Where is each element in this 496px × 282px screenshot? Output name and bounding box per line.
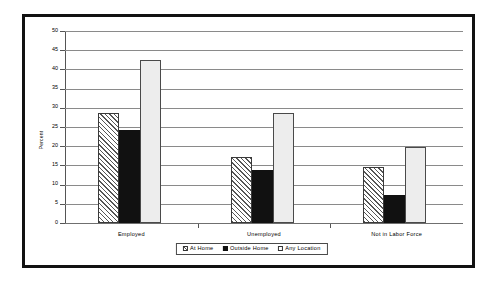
y-tick-label: 45: [32, 47, 58, 52]
y-tick-label: 10: [32, 181, 58, 186]
legend-swatch-icon: [278, 246, 283, 251]
bar: [119, 130, 140, 223]
y-tick-label: 50: [32, 28, 58, 33]
bar: [384, 195, 405, 223]
bar: [273, 113, 294, 223]
legend-swatch-icon: [222, 246, 227, 251]
y-tick-label-holder: 35: [25, 85, 58, 93]
y-tick-label-holder: 20: [25, 143, 58, 151]
y-tick-label-holder: 50: [25, 28, 58, 36]
y-tick-label: 20: [32, 143, 58, 148]
category-label-unemployed: Unemployed: [198, 231, 331, 237]
bars-layer: [65, 31, 463, 223]
bar: [252, 170, 273, 223]
legend-entry: Any Location: [278, 246, 321, 252]
y-tick-label-holder: 15: [25, 162, 58, 170]
y-tick-label: 25: [32, 124, 58, 129]
y-tick-label-holder: 5: [25, 200, 58, 208]
category-label-not-in-labor-force: Not in Labor Force: [330, 231, 463, 237]
y-tick-label: 35: [32, 85, 58, 90]
y-tick-label: 30: [32, 104, 58, 109]
gridline-0: [65, 223, 463, 224]
y-tick-label: 0: [32, 220, 58, 225]
chart-legend: At HomeOutside HomeAny Location: [175, 243, 327, 255]
y-tick-label: 40: [32, 66, 58, 71]
legend-swatch-icon: [182, 246, 187, 251]
figure-frame: Percent 05101520253035404550 EmployedUne…: [22, 14, 475, 268]
y-tick-label: 15: [32, 162, 58, 167]
x-tick-mark: [330, 224, 331, 228]
y-tick-label-holder: 45: [25, 47, 58, 55]
legend-entry: At Home: [182, 246, 213, 252]
bar: [140, 60, 161, 223]
bar: [363, 167, 384, 223]
y-tick-label-holder: 0: [25, 220, 58, 228]
bar: [98, 113, 119, 223]
legend-label: Outside Home: [230, 246, 269, 252]
y-tick-label-holder: 10: [25, 181, 58, 189]
chart-figure: Percent 05101520253035404550 EmployedUne…: [0, 0, 496, 282]
y-tick-label: 5: [32, 200, 58, 205]
y-tick-label-holder: 40: [25, 66, 58, 74]
legend-entry: Outside Home: [222, 246, 268, 252]
x-tick-mark: [198, 224, 199, 228]
legend-label: Any Location: [285, 246, 320, 252]
y-tick-label-holder: 30: [25, 104, 58, 112]
plot-wrapper: Percent 05101520253035404550 EmployedUne…: [25, 17, 478, 271]
bar: [231, 157, 252, 223]
bar: [405, 147, 426, 223]
y-tick-label-holder: 25: [25, 124, 58, 132]
legend-label: At Home: [190, 246, 214, 252]
category-label-employed: Employed: [65, 231, 198, 237]
plot-area: [65, 31, 463, 223]
